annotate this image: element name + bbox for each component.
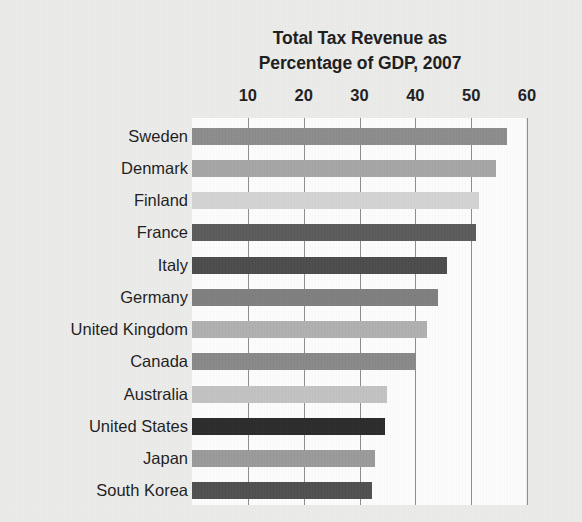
chart-title-line-1: Total Tax Revenue as bbox=[160, 26, 560, 51]
bar-germany bbox=[192, 289, 438, 306]
bar-united-kingdom bbox=[192, 321, 427, 338]
bar-series bbox=[192, 118, 526, 505]
x-tick-label-20: 20 bbox=[294, 86, 312, 105]
chart-title-line-2: Percentage of GDP, 2007 bbox=[160, 51, 560, 76]
x-tick-label-40: 40 bbox=[406, 86, 424, 105]
x-axis-tick-labels: 102030405060 bbox=[0, 86, 582, 110]
plot-area bbox=[192, 118, 526, 505]
bar-australia bbox=[192, 386, 387, 403]
bar-france bbox=[192, 224, 476, 241]
category-label-italy: Italy bbox=[0, 257, 188, 274]
category-label-japan: Japan bbox=[0, 450, 188, 467]
bar-japan bbox=[192, 450, 375, 467]
category-label-united-states: United States bbox=[0, 418, 188, 435]
y-axis-category-labels: SwedenDenmarkFinlandFranceItalyGermanyUn… bbox=[0, 118, 188, 505]
chart-title: Total Tax Revenue as Percentage of GDP, … bbox=[160, 26, 560, 76]
category-label-sweden: Sweden bbox=[0, 128, 188, 145]
category-label-denmark: Denmark bbox=[0, 160, 188, 177]
category-label-germany: Germany bbox=[0, 289, 188, 306]
x-tick-label-60: 60 bbox=[518, 86, 536, 105]
gridline-60 bbox=[527, 118, 528, 505]
bar-south-korea bbox=[192, 482, 372, 499]
category-label-canada: Canada bbox=[0, 353, 188, 370]
x-tick-label-10: 10 bbox=[239, 86, 257, 105]
bar-sweden bbox=[192, 128, 507, 145]
bar-denmark bbox=[192, 160, 496, 177]
bar-canada bbox=[192, 353, 416, 370]
bar-united-states bbox=[192, 418, 385, 435]
category-label-france: France bbox=[0, 224, 188, 241]
chart-figure: Total Tax Revenue as Percentage of GDP, … bbox=[0, 0, 582, 522]
category-label-united-kingdom: United Kingdom bbox=[0, 321, 188, 338]
x-tick-label-50: 50 bbox=[462, 86, 480, 105]
bar-finland bbox=[192, 192, 479, 209]
x-tick-label-30: 30 bbox=[350, 86, 368, 105]
bar-italy bbox=[192, 257, 447, 274]
category-label-australia: Australia bbox=[0, 386, 188, 403]
category-label-finland: Finland bbox=[0, 192, 188, 209]
category-label-south-korea: South Korea bbox=[0, 482, 188, 499]
